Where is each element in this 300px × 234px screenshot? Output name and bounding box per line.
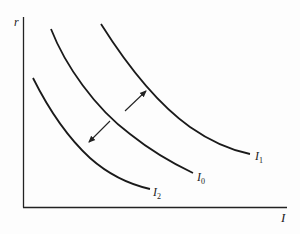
x-axis-label: I [280,210,286,225]
curve-i0 [51,29,193,173]
diagram-canvas: r I I1 I0 I2 [0,0,300,234]
label-i1: I1 [254,149,263,165]
arrow-outward [125,91,146,111]
arrow-inward [89,121,110,142]
curve-i1 [101,24,250,154]
curve-i2 [33,78,150,189]
curve-shift-diagram: r I I1 I0 I2 [0,0,300,234]
y-axis-label: r [14,15,19,29]
label-i0: I0 [196,170,205,186]
label-i2: I2 [152,185,161,201]
